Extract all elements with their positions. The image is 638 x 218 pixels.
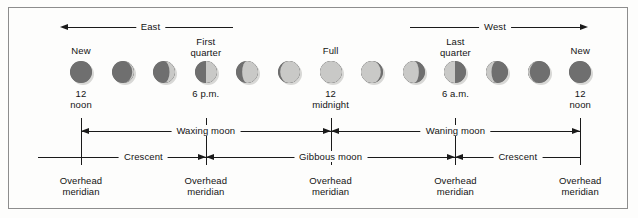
phase-name-label-line2: quarter [190,47,221,58]
moon-waning-crescent [528,61,552,85]
moon-disc [320,61,342,83]
overhead-meridian-label-line2: meridian [309,186,352,197]
overhead-meridian-line [580,118,581,165]
moon-disc [70,61,92,83]
moon-waning-gibbous [361,61,385,85]
time-label: 12midnight [312,88,349,110]
span-arrowhead-end [447,154,455,160]
moon-disc [195,61,217,83]
direction-arrowhead [60,24,68,30]
moon-disc [528,61,550,83]
overhead-meridian-label-line1: Overhead [434,175,477,186]
overhead-meridian-label-line2: meridian [434,186,477,197]
moon-disc [112,61,134,83]
phase-name-label: Firstquarter [190,36,221,58]
phase-name-label-line1: First [190,36,221,47]
overhead-meridian-label: Overheadmeridian [434,175,477,197]
moon-full [320,61,344,85]
time-label-line1: 6 a.m. [442,88,469,99]
overhead-meridian-label-line2: meridian [185,186,228,197]
span-arrowhead-start [206,154,214,160]
overhead-meridian-label-line1: Overhead [309,175,352,186]
overhead-meridian-label: Overheadmeridian [559,175,602,197]
time-label-line2: midnight [312,99,349,110]
moon-waxing-gibbous [278,61,302,85]
phase-name-label-line1: Full [323,45,339,56]
overhead-meridian-label: Overheadmeridian [309,175,352,197]
span-line-tail [38,157,81,158]
span-arrowhead-end [572,128,580,134]
moon-new [569,61,593,85]
span-arrowhead-end [198,154,206,160]
time-label: 6 p.m. [192,88,219,99]
moon-disc [403,61,425,83]
span-arrowhead-start [81,128,89,134]
span-label: Crescent [493,151,542,162]
moon-last-quarter [444,61,468,85]
overhead-meridian-label: Overheadmeridian [60,175,103,197]
overhead-meridian-label-line1: Overhead [559,175,602,186]
moon-disc [486,61,508,83]
overhead-meridian-label: Overheadmeridian [185,175,228,197]
phase-name-label-line1: New [571,45,590,56]
overhead-meridian-label-line1: Overhead [60,175,103,186]
overhead-meridian-label-line2: meridian [559,186,602,197]
time-label-line1: 6 p.m. [192,88,219,99]
phase-name-label: New [571,45,590,56]
phase-name-label-line1: New [71,45,90,56]
phase-name-label: Full [323,45,339,56]
span-label: Gibbous moon [294,151,367,162]
phase-name-label: New [71,45,90,56]
phase-name-label-line1: Last [440,36,471,47]
phase-name-label: Lastquarter [440,36,471,58]
time-label: 6 a.m. [442,88,469,99]
direction-arrowhead [580,24,588,30]
time-label: 12noon [569,88,591,110]
moon-waxing-gibbous [236,61,260,85]
overhead-meridian-label-line1: Overhead [185,175,228,186]
time-label-line1: 12 [569,88,591,99]
time-label-line1: 12 [70,88,92,99]
moon-new [70,61,94,85]
direction-label: West [479,21,511,32]
span-label: Waxing moon [171,125,240,136]
moon-phase-diagram: EastWest NewFirstquarterFullLastquarterN… [0,0,638,218]
time-label-line2: noon [569,99,591,110]
moon-waxing-crescent [112,61,136,85]
span-arrowhead-end [323,128,331,134]
overhead-meridian-label-line2: meridian [60,186,103,197]
phase-name-label-line2: quarter [440,47,471,58]
moon-waning-crescent [486,61,510,85]
span-label: Crescent [119,151,168,162]
time-label-line2: noon [70,99,92,110]
span-arrowhead-start [455,154,463,160]
direction-label: East [136,21,165,32]
moon-disc [278,61,300,83]
time-label-line1: 12 [312,88,349,99]
moon-waxing-crescent [153,61,177,85]
time-label: 12noon [70,88,92,110]
moon-first-quarter [195,61,219,85]
moon-waning-gibbous [403,61,427,85]
span-label: Waning moon [421,125,490,136]
span-arrowhead-start [331,128,339,134]
